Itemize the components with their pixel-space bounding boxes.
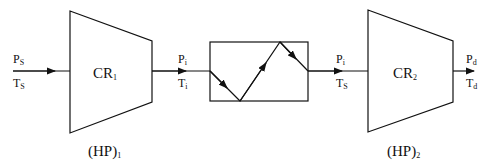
- compressor-1-power: (HP)1: [88, 144, 121, 160]
- diagram-canvas: [0, 0, 488, 166]
- compressor-2-label: CR2: [393, 66, 417, 82]
- compressor-1-label: CR1: [93, 66, 117, 82]
- inlet-pressure: PS: [13, 53, 24, 67]
- compressor-2-power: (HP)2: [387, 144, 420, 160]
- after-cr1-temperature: Ti: [178, 77, 188, 91]
- outlet-pressure: Pd: [466, 53, 477, 67]
- after-cooler-temperature: TS: [336, 77, 348, 91]
- after-cooler-pressure: Pi: [336, 53, 345, 67]
- outlet-temperature: Td: [466, 77, 477, 91]
- inlet-temperature: TS: [13, 77, 25, 91]
- intercooler-box: [210, 42, 308, 101]
- after-cr1-pressure: Pi: [178, 53, 187, 67]
